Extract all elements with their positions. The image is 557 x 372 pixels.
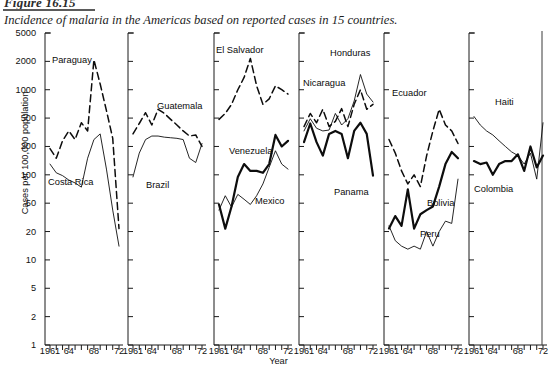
- figure-container: Figure 16.15 Incidence of malaria in the…: [0, 0, 557, 372]
- series-line-nicaragua: [304, 90, 373, 127]
- series-label-mexico: Mexico: [255, 196, 284, 206]
- series-label-paraguay: Paraguay: [52, 55, 92, 65]
- series-label-honduras: Honduras: [330, 48, 370, 58]
- series-line-el-salvador: [219, 58, 288, 119]
- series-line-guatemala: [133, 109, 202, 146]
- series-label-haiti: Haiti: [495, 97, 514, 107]
- series-line-paraguay: [50, 60, 119, 229]
- series-label-brazil: Brazil: [146, 180, 169, 190]
- series-label-nicaragua: Nicaragua: [303, 78, 345, 88]
- series-label-guatemala: Guatemala: [157, 101, 202, 111]
- series-label-ecuador: Ecuador: [392, 88, 427, 98]
- series-label-panama: Panama: [334, 187, 369, 197]
- series-line-panama: [304, 123, 373, 176]
- series-label-peru: Peru: [420, 229, 440, 239]
- series-line-haiti: [474, 116, 543, 179]
- series-line-brazil: [133, 136, 202, 177]
- series-line-ecuador: [389, 109, 458, 186]
- series-label-colombia: Colombia: [474, 184, 513, 194]
- series-label-bolivia: Bolivia: [427, 198, 454, 208]
- series-label-el-salvador: El Salvador: [216, 45, 264, 55]
- series-label-costa-rica: Costa Rica: [48, 177, 93, 187]
- series-line-costa-rica: [50, 134, 119, 246]
- series-label-venezuela: Venezuela: [229, 146, 272, 156]
